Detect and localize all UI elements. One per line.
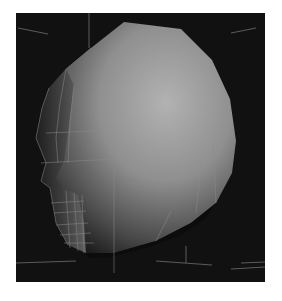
3d-viewport[interactable] xyxy=(16,13,265,282)
viewport-canvas[interactable] xyxy=(16,13,265,282)
